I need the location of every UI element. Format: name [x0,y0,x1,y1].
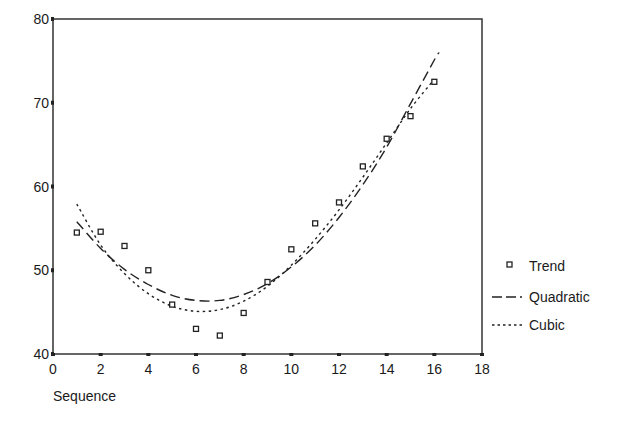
square-marker-icon [507,262,512,267]
x-tick-label: 12 [331,361,347,377]
x-tick-mark [194,353,198,356]
x-axis-title: Sequence [53,388,116,404]
y-tick-mark [51,268,54,272]
x-tick-mark [385,353,389,356]
x-tick-mark [99,353,103,356]
plot-frame [53,19,482,354]
trend-data-point [194,326,199,331]
x-tick-mark [432,353,436,356]
y-tick-label: 50 [33,262,49,278]
legend-label-trend: Trend [529,258,565,274]
trend-data-point [98,229,103,234]
x-tick-label: 0 [49,361,57,377]
x-tick-label: 6 [192,361,200,377]
y-tick-label: 60 [33,179,49,195]
trend-data-point [432,79,437,84]
y-tick-mark [51,185,54,189]
y-tick-label: 80 [33,11,49,27]
x-tick-label: 14 [379,361,395,377]
y-tick-mark [51,17,54,21]
x-tick-label: 8 [240,361,248,377]
trend-data-point [384,136,389,141]
x-tick-mark [337,353,341,356]
x-tick-mark [480,353,484,356]
x-tick-mark [146,353,150,356]
x-tick-label: 10 [284,361,300,377]
y-axis: 4050607080 [33,11,54,362]
y-tick-mark [51,101,54,105]
legend-item-quadratic: Quadratic [492,289,590,305]
trend-data-point [170,302,175,307]
trend-data-point [74,230,79,235]
trend-data-point [241,310,246,315]
trend-data-point [337,200,342,205]
legend: Trend Quadratic Cubic [492,258,590,333]
x-tick-mark [242,353,246,356]
trend-data-point [217,333,222,338]
x-tick-label: 18 [474,361,490,377]
trend-data-point [313,221,318,226]
x-axis: 024681012141618 [49,353,490,377]
x-tick-mark [289,353,293,356]
trend-data-point [360,164,365,169]
legend-label-quadratic: Quadratic [529,289,590,305]
x-tick-label: 4 [144,361,152,377]
y-tick-label: 70 [33,95,49,111]
trend-data-point [122,243,127,248]
x-tick-label: 2 [97,361,105,377]
chart: 4050607080 024681012141618 Sequence Tren… [0,0,619,427]
x-tick-mark [51,353,55,356]
y-tick-label: 40 [33,346,49,362]
legend-item-trend: Trend [507,258,565,274]
x-tick-label: 16 [427,361,443,377]
trend-data-point [265,279,270,284]
legend-item-cubic: Cubic [492,317,565,333]
trend-data-point [146,268,151,273]
trend-data-point [408,114,413,119]
legend-label-cubic: Cubic [529,317,565,333]
trend-data-point [289,247,294,252]
